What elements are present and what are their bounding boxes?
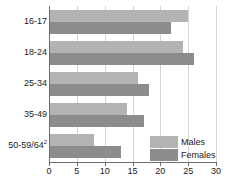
x-tick-label: 25 <box>183 167 193 176</box>
bar-females <box>49 146 121 158</box>
legend-label-females: Females <box>181 149 216 161</box>
category-label: 16-17 <box>24 17 47 26</box>
bar-males <box>49 134 94 146</box>
bar-females <box>49 115 144 127</box>
legend-item-males: Males <box>150 136 228 148</box>
x-tick-label: 0 <box>46 167 51 176</box>
category-label: 18-24 <box>24 48 47 57</box>
bar-males <box>49 10 188 22</box>
x-tick-label: 5 <box>74 167 79 176</box>
bar-group <box>49 100 216 131</box>
legend-label-males: Males <box>181 136 205 148</box>
bar-females <box>49 84 149 96</box>
category-label: 35-49 <box>24 110 47 119</box>
x-tick-label: 30 <box>211 167 221 176</box>
legend-swatch-females <box>150 149 178 161</box>
bar-males <box>49 41 183 53</box>
bar-males <box>49 72 138 84</box>
bar-females <box>49 53 194 65</box>
bar-females <box>49 22 171 34</box>
y-axis-line <box>49 6 50 162</box>
bar-group <box>49 6 216 37</box>
category-label: 25-34 <box>24 79 47 88</box>
bar-group <box>49 68 216 99</box>
bar-group <box>49 37 216 68</box>
bar-chart: 16-1718-2425-3435-4950-59/642 0510152025… <box>0 0 230 189</box>
x-tick-label: 10 <box>100 167 110 176</box>
legend: Males Females <box>150 136 228 162</box>
legend-item-females: Females <box>150 149 228 161</box>
category-label: 50-59/642 <box>8 141 47 150</box>
bar-males <box>49 103 127 115</box>
legend-swatch-males <box>150 136 178 148</box>
x-tick-label: 20 <box>155 167 165 176</box>
x-tick-label: 15 <box>127 167 137 176</box>
